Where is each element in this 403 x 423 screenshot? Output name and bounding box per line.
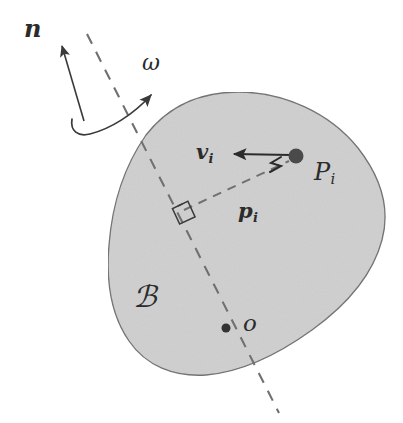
label-p-i-subscript: i bbox=[253, 210, 258, 225]
label-v-i-base: v bbox=[196, 139, 208, 164]
point-P-i-dot bbox=[289, 149, 304, 164]
point-o-dot bbox=[222, 324, 231, 333]
label-v-i: vi bbox=[196, 141, 213, 165]
diagram-svg bbox=[0, 0, 403, 423]
vector-omega-arrow bbox=[72, 95, 151, 135]
label-n: n bbox=[24, 17, 41, 41]
label-P-i: Pi bbox=[314, 160, 335, 187]
label-omega: ω bbox=[142, 52, 160, 74]
vector-v-i-arrow bbox=[234, 154, 291, 155]
label-v-i-subscript: i bbox=[208, 151, 213, 166]
label-P-i-base: P bbox=[314, 158, 330, 186]
label-p-i-base: p bbox=[238, 198, 253, 223]
figure-canvas: n ω vi pi Pi o ℬ bbox=[0, 0, 403, 423]
label-script-B: ℬ bbox=[133, 282, 157, 312]
vector-n-arrow bbox=[62, 46, 84, 121]
label-o: o bbox=[243, 312, 257, 335]
label-p-i: pi bbox=[238, 200, 258, 224]
label-P-i-subscript: i bbox=[330, 170, 335, 188]
